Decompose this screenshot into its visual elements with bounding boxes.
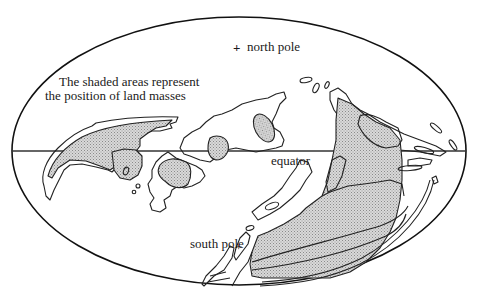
land-outline-east-equator-tongue <box>408 158 432 166</box>
land-outline-south-pole-c <box>208 272 230 282</box>
island-north-b <box>312 82 321 93</box>
equator-label: equator <box>271 153 311 168</box>
land-shaded-central-south <box>158 159 190 188</box>
annotation-line-1: The shaded areas represent <box>59 74 200 89</box>
island-west-c <box>132 190 136 194</box>
island-far-east-c <box>414 145 435 155</box>
island-east-b <box>246 225 255 231</box>
island-north-c <box>324 81 330 89</box>
land-shaded-west <box>48 120 172 178</box>
north-pole-marker: + <box>233 40 240 55</box>
land-shaded-central-north-a <box>208 136 228 160</box>
north-pole-label: north pole <box>247 39 300 54</box>
south-pole-label: south pole <box>190 236 244 251</box>
island-far-east-b <box>448 139 458 151</box>
island-far-east-a <box>429 122 443 134</box>
island-north-a <box>300 76 313 83</box>
paleogeographic-map: + + north pole south pole equator The sh… <box>0 0 477 296</box>
annotation-line-2: the position of land masses <box>45 88 186 103</box>
land-shaded-west-east-lobe <box>112 149 142 180</box>
island-west-b <box>136 184 140 188</box>
